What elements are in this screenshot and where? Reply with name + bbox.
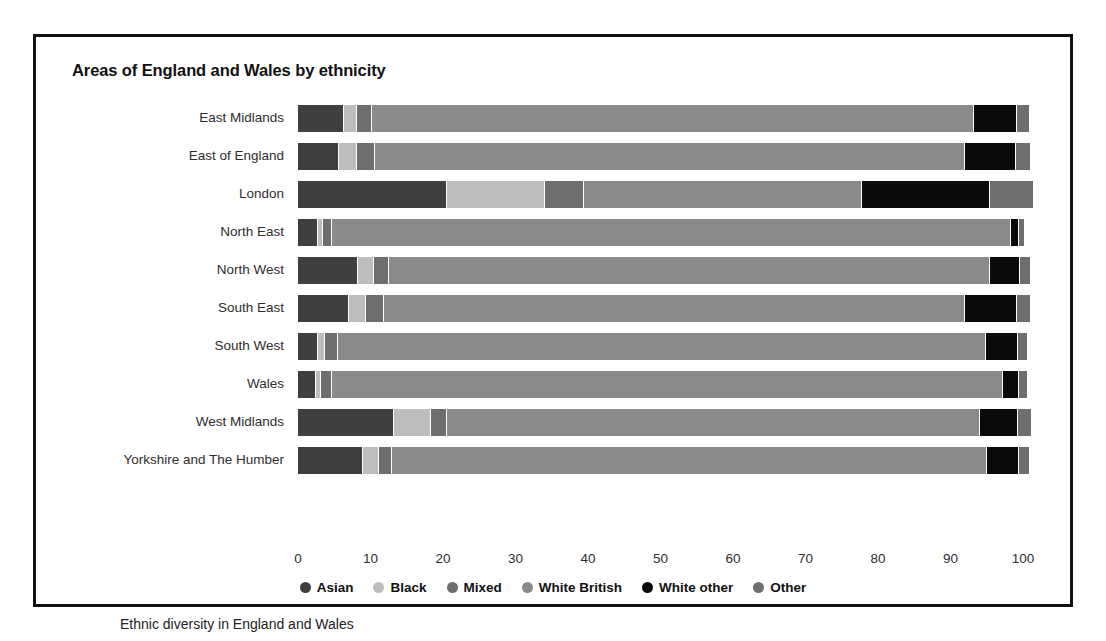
category-label: South East: [72, 301, 298, 315]
bar-segment-black: [447, 181, 545, 208]
stacked-bar: [298, 219, 1052, 246]
bar-segment-white-british: [332, 219, 1011, 246]
bar-segment-mixed: [323, 219, 332, 246]
x-axis-tick-label: 10: [363, 551, 378, 566]
bar-row: Yorkshire and The Humber: [72, 441, 1052, 479]
bar-segment-other: [1017, 295, 1031, 322]
legend-item-label: Mixed: [464, 580, 502, 595]
category-label: East Midlands: [72, 111, 298, 125]
stacked-bar: [298, 181, 1052, 208]
legend-item-other[interactable]: Other: [753, 580, 806, 595]
bar-segment-mixed: [431, 409, 447, 436]
legend-swatch-icon: [753, 582, 764, 593]
legend-item-white-other[interactable]: White other: [642, 580, 733, 595]
bar-segment-white-british: [447, 409, 980, 436]
bar-segment-other: [1020, 257, 1031, 284]
bar-row: West Midlands: [72, 403, 1052, 441]
bar-row: East of England: [72, 137, 1052, 175]
bar-segment-asian: [298, 447, 363, 474]
bar-segment-mixed: [325, 333, 338, 360]
plot-area: East MidlandsEast of EnglandLondonNorth …: [72, 99, 1052, 549]
chart-legend: AsianBlackMixedWhite BritishWhite otherO…: [36, 580, 1070, 595]
bar-segment-mixed: [545, 181, 585, 208]
x-axis-tick-label: 90: [943, 551, 958, 566]
bar-segment-other: [1019, 447, 1030, 474]
bar-segment-asian: [298, 371, 316, 398]
bar-segment-asian: [298, 219, 318, 246]
bar-segment-other: [990, 181, 1034, 208]
stacked-bar: [298, 371, 1052, 398]
x-axis-tick-label: 0: [294, 551, 302, 566]
legend-swatch-icon: [300, 582, 311, 593]
bar-segment-white-other: [862, 181, 990, 208]
bar-segment-white-british: [372, 105, 974, 132]
x-axis-tick-label: 50: [653, 551, 668, 566]
bar-segment-asian: [298, 333, 318, 360]
bar-row: South West: [72, 327, 1052, 365]
bar-segment-asian: [298, 257, 358, 284]
bar-segment-black: [358, 257, 374, 284]
bar-segment-black: [349, 295, 366, 322]
x-axis: 0102030405060708090100: [72, 551, 1052, 577]
legend-item-label: Asian: [317, 580, 354, 595]
bar-row: London: [72, 175, 1052, 213]
bar-segment-mixed: [366, 295, 383, 322]
bar-segment-other: [1019, 219, 1026, 246]
x-axis-tick-label: 70: [798, 551, 813, 566]
bar-segment-white-british: [332, 371, 1003, 398]
bar-segment-white-british: [584, 181, 862, 208]
legend-item-mixed[interactable]: Mixed: [447, 580, 502, 595]
x-axis-ticks: 0102030405060708090100: [298, 551, 1052, 577]
bar-segment-other: [1019, 371, 1028, 398]
bar-segment-white-other: [974, 105, 1018, 132]
figure-frame: Areas of England and Wales by ethnicity …: [33, 34, 1073, 607]
bar-segment-asian: [298, 181, 447, 208]
bar-segment-white-other: [987, 447, 1019, 474]
bar-row: Wales: [72, 365, 1052, 403]
x-axis-tick-label: 100: [1012, 551, 1035, 566]
bar-segment-white-other: [986, 333, 1018, 360]
bar-segment-white-british: [338, 333, 986, 360]
legend-item-white-british[interactable]: White British: [522, 580, 622, 595]
legend-swatch-icon: [642, 582, 653, 593]
bar-row: South East: [72, 289, 1052, 327]
legend-item-black[interactable]: Black: [373, 580, 426, 595]
bar-segment-black: [363, 447, 380, 474]
bar-row: East Midlands: [72, 99, 1052, 137]
bar-segment-asian: [298, 105, 344, 132]
bar-segment-white-british: [375, 143, 965, 170]
bar-segment-other: [1017, 105, 1030, 132]
chart-page: Areas of England and Wales by ethnicity …: [0, 0, 1106, 641]
legend-item-label: White other: [659, 580, 733, 595]
bar-segment-white-british: [389, 257, 990, 284]
bar-segment-white-other: [965, 143, 1016, 170]
bar-segment-white-other: [1011, 219, 1019, 246]
stacked-bar: [298, 409, 1052, 436]
bar-segment-asian: [298, 295, 349, 322]
bar-segment-white-other: [965, 295, 1017, 322]
category-label: East of England: [72, 149, 298, 163]
bar-segment-white-other: [990, 257, 1020, 284]
legend-swatch-icon: [373, 582, 384, 593]
stacked-bar: [298, 333, 1052, 360]
category-label: Yorkshire and The Humber: [72, 453, 298, 467]
stacked-bar: [298, 295, 1052, 322]
bar-segment-other: [1018, 333, 1028, 360]
stacked-bar: [298, 143, 1052, 170]
bar-segment-black: [394, 409, 430, 436]
category-label: Wales: [72, 377, 298, 391]
bar-segment-white-british: [392, 447, 987, 474]
category-label: North East: [72, 225, 298, 239]
legend-item-label: White British: [539, 580, 622, 595]
bar-segment-asian: [298, 409, 394, 436]
bar-segment-asian: [298, 143, 339, 170]
bar-segment-mixed: [321, 371, 332, 398]
figure-caption: Ethnic diversity in England and Wales: [120, 616, 354, 641]
legend-item-label: Other: [770, 580, 806, 595]
category-label: West Midlands: [72, 415, 298, 429]
legend-item-label: Black: [390, 580, 426, 595]
bar-segment-white-other: [1003, 371, 1020, 398]
bar-segment-white-other: [980, 409, 1018, 436]
x-axis-tick-label: 30: [508, 551, 523, 566]
legend-item-asian[interactable]: Asian: [300, 580, 354, 595]
